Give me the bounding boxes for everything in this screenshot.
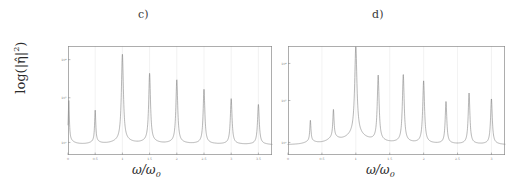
x-tick-label-0: 0 [67,157,69,161]
x-tick-label-1: 0.5 [319,157,324,161]
x-axis-label-c: ω/ω0 [132,163,161,179]
x-tick-label-7: 3.5 [256,157,261,161]
plot-d-svg: 00.511.522.5310⁰10²10⁴ [288,46,505,155]
spectrum-curve [288,47,505,145]
x-axis-label-d-main: ω/ω [366,163,390,177]
y-axis-label: log(|η̂|2) [12,26,27,110]
y-tick-label-1: 10² [281,99,287,103]
y-tick-label-0: 10⁰ [61,141,67,145]
x-tick-label-4: 2 [423,157,425,161]
plot-c-svg: 00.511.522.533.510⁰10²10⁴ [68,46,272,155]
x-tick-label-5: 2.5 [455,157,460,161]
x-axis-label-c-main: ω/ω [132,163,156,177]
y-tick-label-2: 10⁴ [61,58,67,62]
plot-panel-d: 00.511.522.5310⁰10²10⁴ [288,46,505,155]
panel-label-d: d) [372,8,384,21]
y-axis-label-paren: ) [13,42,28,47]
x-tick-label-0: 0 [287,157,289,161]
x-tick-label-2: 1 [355,157,357,161]
x-tick-label-6: 3 [230,157,232,161]
x-tick-label-4: 2 [176,157,178,161]
spectrum-curve [68,54,272,144]
x-tick-label-6: 3 [490,157,492,161]
y-tick-label-1: 10² [61,96,67,100]
x-tick-label-2: 1 [121,157,123,161]
x-tick-label-3: 1.5 [387,157,392,161]
x-tick-label-3: 1.5 [147,157,152,161]
x-axis-label-c-sub: 0 [156,170,161,179]
y-tick-label-0: 10⁰ [281,141,287,145]
plot-panel-c: 00.511.522.533.510⁰10²10⁴ [68,46,272,155]
x-axis-label-d: ω/ω0 [366,163,395,179]
y-axis-label-text: log(|η̂| [13,52,28,94]
x-tick-label-1: 0.5 [93,157,98,161]
figure-container: c) d) log(|η̂|2) 00.511.522.533.510⁰10²1… [0,0,521,189]
x-axis-label-d-sub: 0 [390,170,395,179]
x-tick-label-5: 2.5 [202,157,207,161]
panel-label-c: c) [138,8,149,21]
y-tick-label-2: 10⁴ [281,62,287,66]
y-axis-label-exponent: 2 [12,47,21,52]
plot-frame [68,46,271,154]
